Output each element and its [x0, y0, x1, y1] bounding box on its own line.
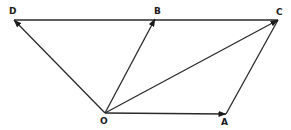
point-label-C: C [276, 7, 283, 17]
vector-diagram: O A B C D [0, 0, 291, 130]
point-label-O: O [100, 116, 108, 126]
vectors-group [14, 19, 278, 114]
point-label-D: D [9, 6, 16, 16]
labels-group: O A B C D [9, 6, 283, 127]
vector-OA [105, 113, 226, 114]
point-label-B: B [154, 6, 161, 16]
vector-OD [14, 20, 105, 113]
point-label-A: A [221, 117, 228, 127]
segments-group [14, 20, 278, 114]
